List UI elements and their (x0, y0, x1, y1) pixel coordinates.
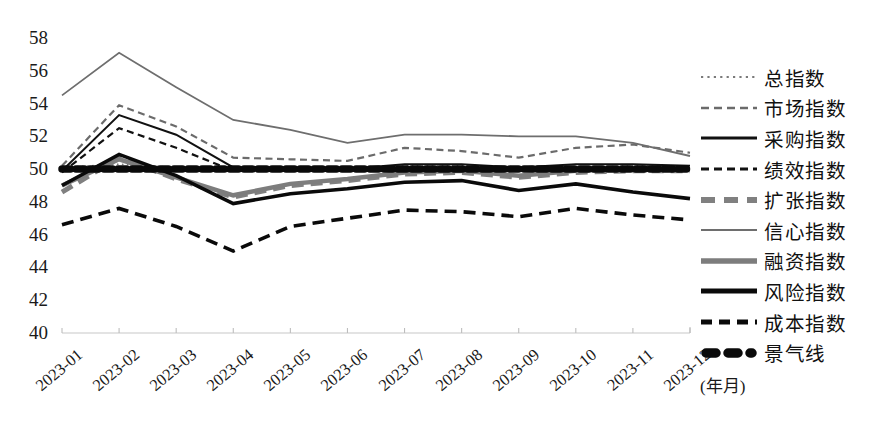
legend-item-label: 景气线 (764, 338, 826, 367)
legend-item-label: 融资指数 (764, 246, 846, 275)
legend-item[interactable]: 扩张指数 (700, 184, 872, 215)
axis-lines (62, 327, 690, 333)
chart-legend: 总指数市场指数采购指数绩效指数扩张指数信心指数融资指数风险指数成本指数景气线 (700, 62, 872, 368)
legend-line-swatch-icon (700, 69, 758, 85)
series-line (62, 115, 690, 171)
legend-line-swatch-icon (700, 222, 758, 238)
series-line (62, 208, 690, 251)
legend-item[interactable]: 成本指数 (700, 307, 872, 338)
legend-item-label: 市场指数 (764, 93, 846, 122)
y-axis-tick-label: 56 (8, 61, 48, 80)
legend-item-label: 成本指数 (764, 308, 846, 337)
legend-item[interactable]: 采购指数 (700, 123, 872, 154)
chart-figure: 58565452504846444240 2023-012023-022023-… (0, 0, 873, 447)
legend-item[interactable]: 融资指数 (700, 246, 872, 277)
y-axis-tick-label: 40 (8, 323, 48, 342)
legend-line-swatch-icon (700, 314, 758, 330)
legend-item-label: 信心指数 (764, 216, 846, 245)
legend-line-swatch-icon (700, 283, 758, 299)
y-axis-tick-label: 54 (8, 94, 48, 113)
legend-line-swatch-icon (700, 253, 758, 269)
y-axis-tick-label: 42 (8, 290, 48, 309)
legend-item-label: 采购指数 (764, 124, 846, 153)
legend-item[interactable]: 总指数 (700, 62, 872, 93)
y-axis-tick-label: 46 (8, 225, 48, 244)
series-line (62, 105, 690, 166)
y-axis-tick-label: 58 (8, 28, 48, 47)
y-axis-tick-label: 44 (8, 257, 48, 276)
series-line (62, 53, 690, 156)
x-axis-title: (年月) (700, 372, 745, 397)
legend-item[interactable]: 风险指数 (700, 276, 872, 307)
series-lines (62, 53, 690, 251)
legend-item[interactable]: 景气线 (700, 337, 872, 368)
legend-line-swatch-icon (700, 100, 758, 116)
legend-item[interactable]: 信心指数 (700, 215, 872, 246)
legend-item[interactable]: 市场指数 (700, 93, 872, 124)
legend-line-swatch-icon (700, 192, 758, 208)
y-axis-tick-label: 52 (8, 126, 48, 145)
legend-item-label: 风险指数 (764, 277, 846, 306)
y-axis-tick-label: 48 (8, 192, 48, 211)
legend-line-swatch-icon (700, 130, 758, 146)
legend-item[interactable]: 绩效指数 (700, 154, 872, 185)
legend-item-label: 总指数 (764, 63, 826, 92)
legend-line-swatch-icon (700, 161, 758, 177)
legend-item-label: 绩效指数 (764, 155, 846, 184)
y-axis-tick-label: 50 (8, 159, 48, 178)
legend-line-swatch-icon (700, 345, 758, 361)
legend-item-label: 扩张指数 (764, 185, 846, 214)
